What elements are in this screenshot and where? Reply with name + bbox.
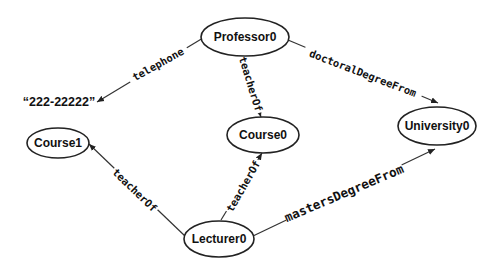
edge-label-lecturer-teacherof-course1: teacherOf (110, 166, 159, 214)
edge-professor-teacherof: teacherOf (236, 53, 267, 117)
edge-telephone: telephone (97, 38, 203, 102)
node-course0[interactable]: Course0 (227, 117, 299, 153)
node-university0[interactable]: University0 (398, 107, 476, 145)
node-label-course0: Course0 (239, 128, 287, 142)
node-label-course1: Course1 (34, 136, 82, 150)
edge-label-masters-degree-from: mastersDegreeFrom (282, 161, 406, 225)
rdf-graph-diagram: telephone teacherOf doctoralDegreeFrom t… (0, 0, 502, 274)
node-professor0[interactable]: Professor0 (201, 18, 289, 56)
edge-label-telephone: telephone (130, 45, 186, 83)
node-lecturer0[interactable]: Lecturer0 (184, 221, 254, 257)
edge-label-doctoral-degree-from: doctoralDegreeFrom (308, 47, 419, 99)
edge-label-professor-teacherof: teacherOf (237, 55, 265, 113)
node-label-university0: University0 (405, 119, 470, 133)
literal-label-telephone: “222-22222” (23, 95, 95, 109)
node-course1[interactable]: Course1 (27, 128, 89, 158)
edge-doctoral-degree-from: doctoralDegreeFrom (288, 40, 438, 103)
node-label-lecturer0: Lecturer0 (192, 232, 247, 246)
node-telephone-literal[interactable]: “222-22222” (23, 95, 95, 109)
edge-lecturer-teacherof-course0: teacherOf (221, 153, 264, 220)
edge-masters-degree-from: mastersDegreeFrom (253, 149, 435, 236)
edge-lecturer-teacherof-course1: teacherOf (89, 144, 186, 237)
node-label-professor0: Professor0 (214, 30, 277, 44)
edge-label-lecturer-teacherof-course0: teacherOf (224, 158, 263, 213)
